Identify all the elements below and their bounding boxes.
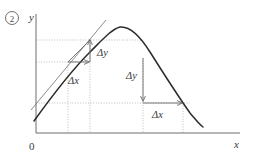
vertical-gridlines xyxy=(68,40,183,133)
y-axis-label: y xyxy=(28,11,34,23)
x-axis-label: x xyxy=(233,138,239,150)
parabola-slope-diagram: 2 y x 0 Δy Δx Δy Δx xyxy=(0,0,258,164)
origin-label: 0 xyxy=(29,140,35,152)
item-number-badge: 2 xyxy=(6,12,19,25)
parabola-curve xyxy=(34,27,203,127)
left-delta-y-label: Δy xyxy=(96,47,108,58)
axes xyxy=(36,14,240,133)
item-number-label: 2 xyxy=(10,14,15,24)
left-delta-x-label: Δx xyxy=(67,75,79,86)
right-delta-y-label: Δy xyxy=(125,70,137,81)
left-hypotenuse-guide xyxy=(68,40,90,62)
right-delta-x-label: Δx xyxy=(151,109,163,120)
horizontal-gridlines xyxy=(36,40,190,103)
figure-container: 2 y x 0 Δy Δx Δy Δx xyxy=(0,0,258,164)
tangent-line xyxy=(31,20,106,110)
right-slope-triangle xyxy=(141,58,183,105)
